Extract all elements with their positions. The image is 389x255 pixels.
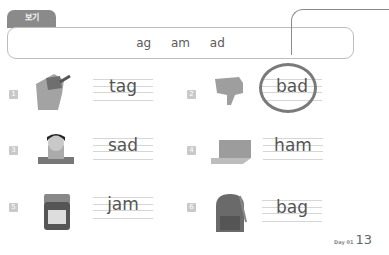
example-tab: 보기 — [7, 10, 56, 28]
item-number: 4 — [187, 146, 196, 155]
day-label: Day 01 — [334, 239, 353, 245]
item-number: 3 — [9, 146, 18, 155]
plow-icon — [32, 70, 77, 112]
writing-lines: bag — [262, 198, 322, 222]
page-number: 13 — [355, 232, 372, 247]
item-number: 1 — [9, 90, 18, 99]
ham-icon — [207, 138, 255, 168]
item-number: 2 — [187, 90, 196, 99]
sad-boy-icon — [36, 131, 76, 166]
jam-jar-icon — [42, 192, 72, 232]
writing-lines: sad — [93, 136, 153, 160]
item-number: 5 — [9, 203, 18, 212]
answer-word: jam — [93, 194, 153, 214]
example-word: ag — [136, 36, 151, 50]
writing-lines: tag — [93, 77, 153, 101]
writing-lines: jam — [93, 195, 153, 219]
backpack-icon — [212, 192, 248, 234]
example-word: ad — [210, 36, 225, 50]
thumbs-down-icon — [213, 75, 248, 107]
writing-lines: ham — [263, 136, 323, 160]
answer-word: sad — [93, 135, 153, 155]
answer-circle — [259, 63, 317, 113]
page-footer: Day 0113 — [334, 232, 372, 247]
answer-word: bag — [262, 197, 322, 217]
answer-word: tag — [93, 76, 153, 96]
item-number: 6 — [187, 203, 196, 212]
example-word: am — [171, 36, 190, 50]
callout-line — [291, 9, 389, 55]
answer-word: ham — [263, 135, 323, 155]
